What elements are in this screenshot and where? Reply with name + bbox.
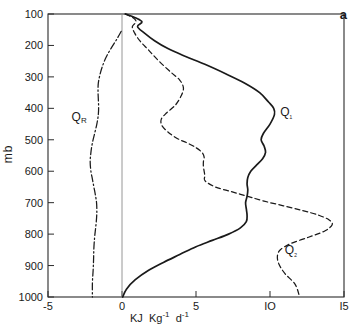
curve-Q1 — [123, 14, 275, 297]
y-tick-label: 200 — [7, 40, 43, 51]
curve-label-QR: QR — [72, 111, 87, 125]
y-tick-label: 500 — [7, 135, 43, 146]
x-axis-label: KJ Kg-1 d-1 — [130, 311, 189, 324]
curve-label-subscript: ₂ — [294, 249, 297, 258]
curve-label-subscript: ₁ — [290, 111, 293, 120]
curve-label-base: Q — [72, 110, 81, 124]
axis-ticks — [48, 14, 344, 297]
x-tick-label: -5 — [28, 301, 68, 312]
y-tick-label: 400 — [7, 103, 43, 114]
y-tick-label: 600 — [7, 166, 43, 177]
y-tick-label: 700 — [7, 198, 43, 209]
curve-Q2 — [125, 14, 332, 297]
curve-label-Q1: Q₁ — [280, 106, 292, 120]
panel-label: a — [340, 8, 347, 21]
curve-label-subscript: R — [81, 116, 87, 125]
x-tick-label: I5 — [324, 301, 356, 312]
figure-panel: mb KJ Kg-1 d-1 a 10020030040050060070080… — [0, 0, 356, 330]
x-label-kj: KJ — [130, 312, 143, 324]
y-tick-label: 800 — [7, 229, 43, 240]
curve-QR — [90, 31, 121, 297]
chart-canvas — [0, 0, 356, 330]
x-tick-label: IO — [250, 301, 290, 312]
y-tick-label: 300 — [7, 72, 43, 83]
y-tick-label: 100 — [7, 9, 43, 20]
x-tick-label: 5 — [176, 301, 216, 312]
x-label-kg: Kg — [149, 312, 162, 324]
curve-label-base: Q — [285, 243, 294, 257]
curve-label-Q2: Q₂ — [285, 244, 297, 258]
y-tick-label: 900 — [7, 261, 43, 272]
x-tick-label: 0 — [102, 301, 142, 312]
curve-label-base: Q — [280, 105, 289, 119]
x-label-kg-exponent: -1 — [162, 310, 169, 319]
plot-frame — [48, 14, 344, 297]
